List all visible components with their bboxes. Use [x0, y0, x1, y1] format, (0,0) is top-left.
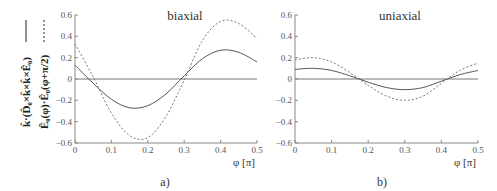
- y-tick-label: −0.4: [56, 117, 73, 127]
- panel-b: 0.60.40.20−0.2−0.4−0.600.10.20.30.40.5un…: [276, 8, 484, 189]
- figure: k̂·(D̂₀×k̂×k̂×Ê₀) Ê₀(φ)·Ê₀(φ+π/2) 0.60.4…: [0, 0, 497, 191]
- x-tick-label: 0.4: [436, 145, 448, 155]
- panel-caption: a): [160, 175, 169, 189]
- y-tick-label: 0.4: [61, 31, 73, 41]
- x-tick-label: 0.4: [215, 145, 227, 155]
- x-axis-label: φ [π]: [454, 156, 476, 168]
- panel-caption: b): [377, 175, 387, 189]
- y-tick-label: −0.4: [276, 117, 293, 127]
- y-label-line2: Ê₀(φ)·Ê₀(φ+π/2): [38, 55, 51, 130]
- x-tick-label: 0.2: [363, 145, 374, 155]
- y-tick-label: 0.4: [281, 31, 293, 41]
- x-tick-label: 0.3: [399, 145, 411, 155]
- y-tick-label: −0.2: [276, 95, 292, 105]
- y-tick-label: 0: [288, 74, 293, 84]
- x-tick-label: 0: [73, 145, 78, 155]
- y-tick-label: −0.2: [56, 95, 72, 105]
- y-tick-label: 0: [68, 74, 73, 84]
- x-tick-label: 0.3: [179, 145, 191, 155]
- y-tick-label: 0.2: [281, 53, 292, 63]
- y-tick-label: 0.6: [281, 10, 293, 20]
- x-tick-label: 0.1: [326, 145, 337, 155]
- dashed-series-line: [75, 20, 257, 139]
- x-tick-label: 0: [293, 145, 298, 155]
- x-axis-label: φ [π]: [233, 156, 255, 168]
- x-tick-label: 0.1: [106, 145, 117, 155]
- y-tick-label: −0.6: [56, 138, 73, 148]
- x-tick-label: 0.2: [142, 145, 153, 155]
- y-tick-label: −0.6: [276, 138, 293, 148]
- y-tick-label: 0.2: [61, 53, 72, 63]
- y-tick-label: 0.6: [61, 10, 73, 20]
- x-tick-label: 0.5: [472, 145, 484, 155]
- chart-title: uniaxial: [379, 8, 421, 23]
- panel-a: 0.60.40.20−0.2−0.4−0.600.10.20.30.40.5bi…: [56, 8, 263, 189]
- chart-title: biaxial: [167, 8, 203, 23]
- y-axis-label: k̂·(D̂₀×k̂×k̂×Ê₀) Ê₀(φ)·Ê₀(φ+π/2): [20, 20, 51, 129]
- y-label-line1: k̂·(D̂₀×k̂×k̂×Ê₀): [20, 57, 33, 127]
- x-tick-label: 0.5: [251, 145, 263, 155]
